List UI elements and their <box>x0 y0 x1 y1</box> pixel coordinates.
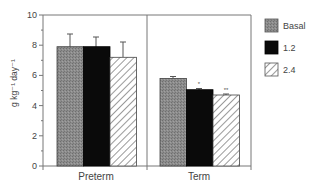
bar-preterm-1-2 <box>84 47 111 166</box>
group-preterm <box>57 34 137 166</box>
bar-preterm-basal <box>57 47 84 166</box>
legend-swatch-1-2 <box>265 41 278 54</box>
legend: Basal 1.2 2.4 <box>265 19 306 76</box>
bar-term-1-2 <box>187 90 214 166</box>
y-tick-labels: 0 2 4 6 8 10 <box>27 10 37 171</box>
bar-preterm-2-4 <box>110 57 137 166</box>
group-term: * ** <box>160 77 240 167</box>
significance-marker: * <box>198 81 201 87</box>
bar-chart: 0 2 4 6 8 10 g kg⁻¹ day⁻¹ * ** Preterm <box>0 0 317 185</box>
category-label-preterm: Preterm <box>78 171 114 182</box>
y-tick-label: 8 <box>32 40 37 50</box>
y-tick-label: 4 <box>32 101 37 111</box>
legend-label-basal: Basal <box>283 21 306 31</box>
y-tick-label: 10 <box>27 10 37 20</box>
significance-marker: ** <box>224 87 229 93</box>
bar-term-basal <box>160 78 187 166</box>
legend-label-2-4: 2.4 <box>283 65 296 75</box>
y-axis-title: g kg⁻¹ day⁻¹ <box>9 59 19 107</box>
legend-swatch-basal <box>265 19 278 32</box>
legend-swatch-2-4 <box>265 63 278 76</box>
y-tick-label: 6 <box>32 70 37 80</box>
bar-term-2-4 <box>213 95 240 166</box>
y-tick-label: 2 <box>32 131 37 141</box>
legend-label-1-2: 1.2 <box>283 43 296 53</box>
y-tick-label: 0 <box>32 161 37 171</box>
y-ticks <box>39 15 43 166</box>
category-label-term: Term <box>188 171 210 182</box>
